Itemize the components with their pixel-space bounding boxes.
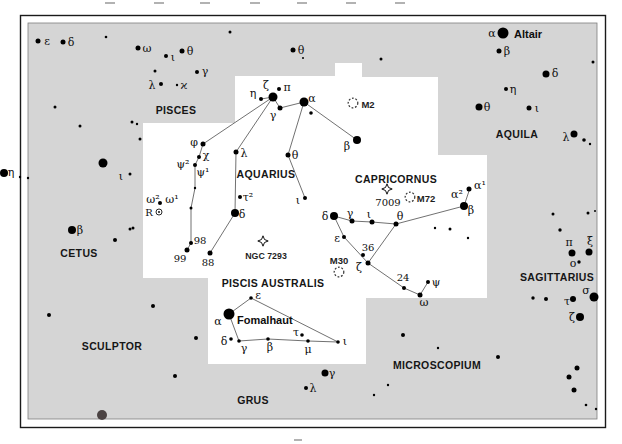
star bbox=[36, 39, 41, 44]
star bbox=[476, 104, 483, 111]
greek-star-label: θ bbox=[187, 45, 194, 58]
constellation-label-capricornus: CAPRICORNUS bbox=[355, 173, 437, 185]
star bbox=[159, 82, 163, 86]
star bbox=[27, 177, 29, 179]
star bbox=[164, 54, 168, 58]
star bbox=[129, 173, 132, 176]
greek-star-label: ζ bbox=[356, 261, 362, 274]
star bbox=[322, 370, 329, 377]
star bbox=[594, 210, 596, 212]
greek-star-label: ω² bbox=[146, 193, 159, 206]
star-number-label: 88 bbox=[202, 257, 215, 268]
star-name-altair: Altair bbox=[514, 28, 543, 40]
star bbox=[570, 296, 576, 302]
star bbox=[309, 111, 313, 115]
star bbox=[47, 313, 51, 317]
star bbox=[194, 187, 196, 189]
star bbox=[467, 237, 469, 239]
greek-star-label: ι bbox=[296, 194, 300, 207]
star bbox=[229, 337, 233, 341]
greek-star-label: β bbox=[344, 140, 350, 153]
star bbox=[190, 207, 193, 210]
star-number-label: 98 bbox=[194, 235, 207, 246]
greek-star-label: γ bbox=[241, 342, 248, 355]
star bbox=[595, 408, 597, 410]
star bbox=[575, 366, 580, 371]
star bbox=[330, 212, 338, 220]
star bbox=[197, 155, 201, 159]
star bbox=[437, 347, 439, 349]
star bbox=[467, 187, 472, 192]
greek-star-label: β bbox=[468, 204, 474, 217]
star-name-fomalhaut: Fomalhaut bbox=[237, 314, 293, 326]
star bbox=[569, 250, 576, 257]
star bbox=[460, 202, 468, 210]
top-tick bbox=[346, 2, 356, 4]
greek-star-label: η bbox=[8, 166, 15, 179]
constellation-label-grus: GRUS bbox=[237, 394, 269, 406]
greek-star-label: α bbox=[488, 27, 496, 40]
star bbox=[434, 227, 436, 229]
star bbox=[154, 70, 157, 73]
greek-star-label: β bbox=[77, 224, 83, 237]
top-tick bbox=[250, 2, 260, 4]
star bbox=[387, 384, 389, 386]
star bbox=[61, 40, 66, 45]
top-tick bbox=[154, 2, 164, 4]
greek-star-label: ε bbox=[334, 232, 340, 245]
star bbox=[577, 260, 580, 263]
greek-star-label: τ bbox=[564, 295, 570, 308]
star bbox=[544, 297, 548, 301]
star bbox=[278, 106, 283, 111]
greek-star-label: θ bbox=[397, 210, 404, 223]
top-tick bbox=[297, 2, 307, 4]
greek-star-label: ψ² bbox=[176, 158, 189, 171]
star bbox=[269, 93, 278, 102]
messier-label-m2: M2 bbox=[361, 99, 374, 110]
greek-star-label: θ bbox=[484, 101, 491, 114]
greek-star-label: ε bbox=[255, 289, 261, 302]
star bbox=[189, 241, 193, 245]
star bbox=[224, 309, 235, 320]
greek-star-label: α¹ bbox=[474, 179, 486, 192]
bottom-tick bbox=[294, 439, 302, 441]
star bbox=[380, 58, 383, 61]
star bbox=[373, 394, 375, 396]
greek-star-label: μ bbox=[304, 343, 311, 356]
star bbox=[131, 121, 134, 124]
greek-star-label: π bbox=[283, 81, 290, 94]
greek-star-label: β bbox=[267, 341, 273, 354]
star bbox=[113, 238, 117, 242]
greek-star-label: λ bbox=[241, 147, 248, 160]
star bbox=[132, 227, 135, 230]
star bbox=[194, 336, 198, 340]
star bbox=[259, 97, 263, 101]
greek-star-label: α bbox=[214, 315, 222, 328]
greek-star-label: χ bbox=[203, 149, 210, 162]
messier-label-m30: M30 bbox=[330, 255, 348, 266]
star bbox=[99, 159, 108, 168]
star bbox=[303, 196, 307, 200]
star bbox=[249, 296, 253, 300]
greek-star-label: η bbox=[510, 83, 517, 96]
sky-chart: PISCESAQUARIUSCAPRICORNUSAQUILACETUSSCUL… bbox=[0, 0, 622, 444]
greek-star-label: α² bbox=[451, 188, 463, 201]
greek-star-label: λ bbox=[563, 131, 570, 144]
star bbox=[576, 313, 584, 321]
star bbox=[585, 404, 588, 407]
greek-star-label: τ bbox=[293, 326, 299, 339]
greek-star-label: ι bbox=[343, 335, 347, 348]
star bbox=[19, 176, 21, 178]
star bbox=[527, 106, 532, 111]
star bbox=[498, 28, 509, 39]
greek-star-label: δ bbox=[552, 67, 559, 80]
greek-star-label: θ bbox=[292, 149, 299, 162]
star bbox=[300, 98, 309, 107]
star bbox=[129, 228, 132, 231]
constellation-label-cetus: CETUS bbox=[60, 247, 97, 259]
star bbox=[136, 123, 138, 125]
greek-star-label: γ bbox=[270, 109, 277, 122]
constellation-label-pisces: PISCES bbox=[156, 104, 197, 116]
star bbox=[229, 31, 232, 34]
variable-star-core bbox=[158, 211, 160, 213]
